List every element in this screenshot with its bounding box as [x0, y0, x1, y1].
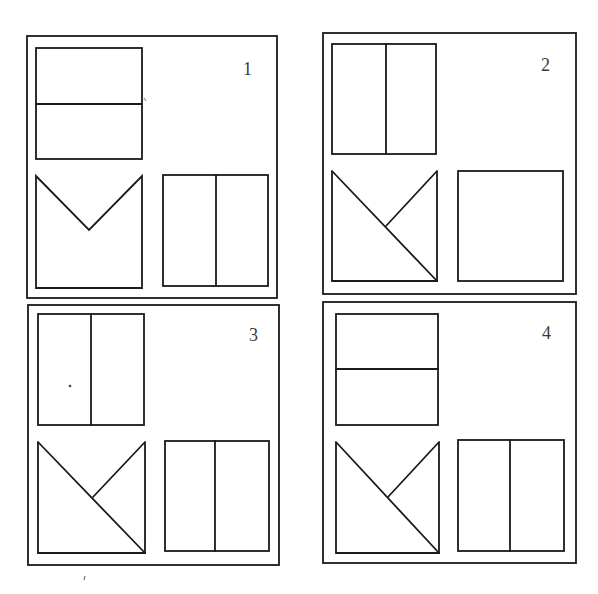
puzzle-figure: 1 2 3 4 [0, 0, 598, 594]
bottom-right-figure-rect [458, 171, 563, 281]
option-panel-4 [323, 302, 576, 563]
bottom-right-figure-rect [458, 440, 564, 551]
bottom-right-figure-rect [165, 441, 269, 551]
top-figure-rect [332, 44, 436, 154]
option-label-2: 2 [541, 56, 550, 74]
option-panel-3 [28, 305, 279, 565]
scan-speck [69, 385, 72, 388]
option-label-3: 3 [249, 326, 258, 344]
bottom-left-figure-branch-line [93, 442, 145, 497]
option-label-1: 1 [243, 60, 252, 78]
bottom-left-figure-v-notch-shape [36, 176, 142, 288]
panel-frame [323, 33, 576, 294]
panels-layer [27, 33, 576, 565]
bottom-left-figure-branch-line [388, 442, 439, 497]
option-panel-1 [27, 36, 277, 298]
scan-speck [144, 98, 146, 101]
bottom-left-figure-branch-line [386, 171, 437, 226]
option-label-4: 4 [542, 324, 551, 342]
figure-canvas [0, 0, 598, 594]
panel-frame [27, 36, 277, 298]
panel-frame [323, 302, 576, 563]
scan-speck [84, 576, 85, 580]
panel-frame [28, 305, 279, 565]
option-panel-2 [323, 33, 576, 294]
